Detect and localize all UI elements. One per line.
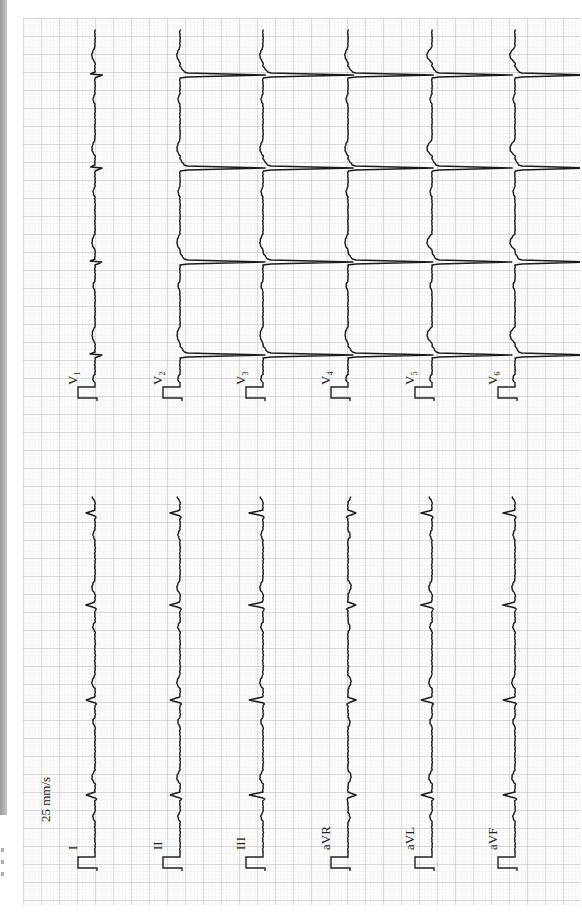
limb-lead-label: aVR: [318, 826, 333, 850]
ecg-sheet: IV1IIV2IIIV3aVRV4aVLV5aVFV625 mm/s: [23, 18, 580, 905]
ecg-grid: [23, 18, 580, 905]
paper-speed-label: 25 mm/s: [38, 777, 53, 822]
scanner-edge-marks: [0, 840, 7, 900]
limb-lead-label: I: [65, 846, 80, 850]
limb-lead-label: II: [150, 841, 165, 850]
scanner-edge-strip: [0, 0, 7, 815]
limb-lead-label: aVF: [485, 828, 500, 850]
limb-lead-label: aVL: [402, 827, 417, 850]
ecg-graph-paper: IV1IIV2IIIV3aVRV4aVLV5aVFV625 mm/s: [23, 18, 580, 905]
limb-lead-label: III: [233, 837, 248, 850]
